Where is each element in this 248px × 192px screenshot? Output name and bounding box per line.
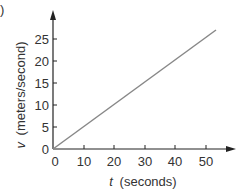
partial-caption: ): [0, 2, 4, 17]
svg-text:50: 50: [199, 154, 213, 169]
velocity-time-chart: ) 0 5 10 15 20 25 0 10 20 30 40 50: [0, 0, 248, 192]
y-axis-arrow-icon: [50, 10, 56, 20]
svg-text:15: 15: [35, 76, 49, 91]
svg-text:10: 10: [35, 98, 49, 113]
y-tick-labels: 0 5 10 15 20 25: [35, 32, 49, 157]
x-axis-arrow-icon: [226, 146, 236, 152]
svg-text:30: 30: [138, 154, 152, 169]
data-line: [53, 30, 216, 149]
svg-text:0: 0: [51, 154, 58, 169]
svg-text:10: 10: [77, 154, 91, 169]
svg-text:5: 5: [42, 120, 49, 135]
y-axis-label: v (meters/second): [13, 41, 28, 148]
svg-text:25: 25: [35, 32, 49, 47]
svg-text:20: 20: [35, 54, 49, 69]
x-axis-label: t (seconds): [109, 174, 176, 189]
svg-text:0: 0: [42, 142, 49, 157]
svg-text:20: 20: [107, 154, 121, 169]
svg-text:40: 40: [168, 154, 182, 169]
x-tick-labels: 0 10 20 30 40 50: [51, 154, 213, 169]
